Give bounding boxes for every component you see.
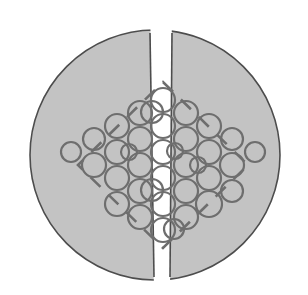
figure-root: [0, 0, 308, 295]
split-disc-packing-figure: [0, 0, 308, 295]
